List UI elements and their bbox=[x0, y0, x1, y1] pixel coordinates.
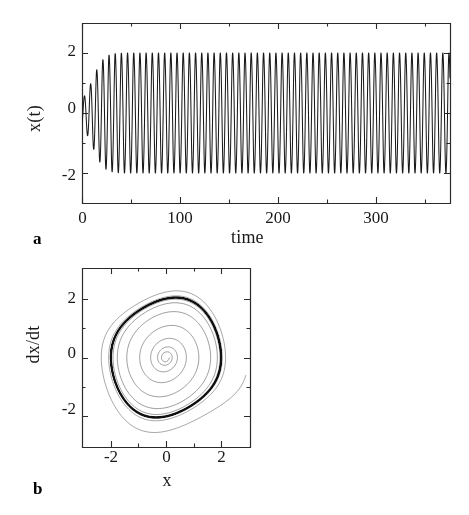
panel-a-time-series: 2 0 -2 0 100 200 300 time x(t) a bbox=[0, 0, 469, 255]
panel-b-xtick-2: 2 bbox=[213, 447, 230, 467]
panel-b-ytick-2: 2 bbox=[58, 288, 76, 308]
panel-a-ytick-neg2: -2 bbox=[50, 165, 76, 185]
panel-a-ytick-0: 0 bbox=[58, 98, 76, 118]
panel-b-xtick-0: 0 bbox=[158, 447, 175, 467]
figure-van-der-pol: 2 0 -2 0 100 200 300 time x(t) a 2 0 -2 … bbox=[0, 0, 469, 515]
panel-a-x-axis-label: time bbox=[231, 227, 264, 248]
panel-a-xtick-100: 100 bbox=[159, 208, 201, 228]
panel-b-x-axis-label: x bbox=[158, 470, 176, 491]
panel-a-y-axis-label: x(t) bbox=[24, 96, 45, 142]
panel-a-ytick-2: 2 bbox=[58, 41, 76, 61]
panel-b-xtick-neg2: -2 bbox=[96, 447, 126, 467]
panel-b-letter: b bbox=[33, 479, 42, 499]
panel-b-ytick-neg2: -2 bbox=[50, 399, 76, 419]
panel-b-y-axis-label: dx/dt bbox=[23, 316, 44, 374]
panel-a-xtick-200: 200 bbox=[257, 208, 299, 228]
panel-b-phase-portrait: 2 0 -2 -2 0 2 x dx/dt b bbox=[0, 250, 469, 515]
panel-a-xtick-300: 300 bbox=[355, 208, 397, 228]
panel-a-plot-canvas bbox=[0, 0, 469, 255]
panel-b-ytick-0: 0 bbox=[58, 343, 76, 363]
panel-a-xtick-0: 0 bbox=[74, 208, 91, 228]
panel-a-letter: a bbox=[33, 229, 42, 249]
